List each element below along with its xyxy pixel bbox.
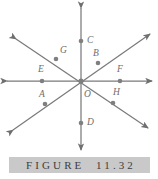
point-dot-e — [40, 79, 45, 84]
point-dot-c — [79, 39, 84, 44]
diagram-svg — [0, 0, 158, 152]
figure-container: A B C D E F G H O FIGURE 11.32 — [0, 0, 158, 179]
point-label-c: C — [87, 36, 93, 46]
point-dot-b — [96, 61, 101, 66]
point-dot-d — [79, 121, 84, 126]
point-dot-o — [78, 78, 83, 83]
point-label-o: O — [84, 90, 91, 100]
point-label-e: E — [38, 65, 44, 75]
geometry-diagram: A B C D E F G H O — [0, 0, 158, 152]
figure-caption-band: FIGURE 11.32 — [9, 157, 150, 173]
point-label-f: F — [117, 65, 123, 75]
point-label-b: B — [93, 49, 99, 59]
point-dot-g — [54, 57, 59, 62]
point-label-d: D — [87, 118, 94, 128]
point-dot-a — [43, 102, 48, 107]
point-label-a: A — [39, 90, 45, 100]
point-label-g: G — [60, 46, 67, 56]
point-label-h: H — [113, 88, 120, 98]
figure-caption-text: FIGURE 11.32 — [23, 159, 136, 171]
point-dot-f — [118, 79, 123, 84]
point-dot-h — [111, 101, 116, 106]
